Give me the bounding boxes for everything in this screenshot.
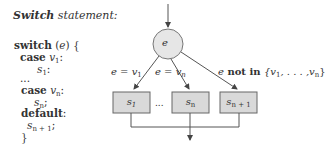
box-sn1-label: sn + 1: [220, 96, 257, 109]
sub: n: [191, 101, 196, 109]
sub: n: [181, 71, 186, 79]
sub: n + 1: [231, 101, 250, 109]
keyword-not-in: not in: [224, 66, 264, 77]
edge-label-default: e not in {v1, . . . ,vn}: [218, 66, 326, 79]
decision-node: [153, 29, 183, 59]
set-mid: , . . . ,v: [280, 66, 314, 77]
edge-label-v1: e = v1: [111, 66, 142, 79]
set-close: }: [319, 66, 325, 77]
boxes-ellipsis: ...: [155, 98, 164, 108]
sub: 1: [132, 101, 136, 109]
box-sn-label: sn: [172, 96, 209, 109]
set-open: {v: [264, 66, 276, 77]
merge-line: [131, 113, 239, 127]
edge-label-vn: e = vn: [155, 66, 186, 79]
label-text: e = v: [111, 66, 137, 77]
label-text: e = v: [155, 66, 181, 77]
node-label: e: [162, 37, 168, 48]
sub: 1: [137, 71, 141, 79]
box-s1-label: s1: [113, 96, 150, 109]
